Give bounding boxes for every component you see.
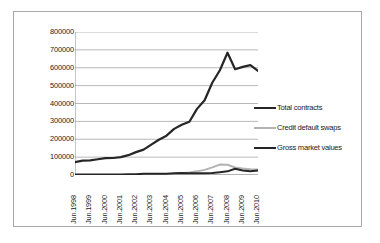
- series-line: [75, 169, 258, 175]
- legend-label: Gross market values: [277, 143, 342, 152]
- y-tick-label: 400000: [28, 100, 74, 108]
- series-line: [75, 53, 258, 162]
- x-tick-label: Jun.2007: [206, 195, 215, 224]
- y-tick-label: 200000: [28, 135, 74, 143]
- chart-legend: Total contractsCredit default swapsGross…: [254, 100, 364, 160]
- x-tick-label: Jun.2000: [100, 195, 109, 224]
- legend-item[interactable]: Gross market values: [254, 140, 364, 155]
- y-tick-label: 700000: [28, 46, 74, 54]
- y-tick-label: 500000: [28, 82, 74, 90]
- y-tick-label: 800000: [28, 28, 74, 36]
- x-tick-label: Jun.2010: [252, 195, 261, 224]
- legend-swatch-icon: [254, 127, 276, 129]
- legend-item[interactable]: Credit default swaps: [254, 120, 364, 135]
- x-tick-label: Jun.2005: [176, 195, 185, 224]
- plot-area: [75, 32, 258, 175]
- x-tick-label: Jun.2006: [191, 195, 200, 224]
- x-tick-label: Jun.2001: [115, 195, 124, 224]
- y-tick-label: 100000: [28, 153, 74, 161]
- y-tick-label: 300000: [28, 117, 74, 125]
- x-tick-label: Jun.1998: [69, 195, 78, 224]
- x-tick-label: Jun.2009: [237, 195, 246, 224]
- x-tick-label: Jun.1999: [84, 195, 93, 224]
- chart-figure: 8000007000006000005000004000003000002000…: [0, 0, 380, 243]
- x-tick-label: Jun.2002: [130, 195, 139, 224]
- x-tick-label: Jun.2003: [145, 195, 154, 224]
- legend-item[interactable]: Total contracts: [254, 100, 364, 115]
- legend-label: Credit default swaps: [277, 123, 341, 132]
- x-tick-label: Jun.2008: [222, 195, 231, 224]
- y-tick-label: 0: [28, 171, 74, 179]
- x-tick-label: Jun.2004: [161, 195, 170, 224]
- y-axis: 8000007000006000005000004000003000002000…: [28, 26, 74, 181]
- chart-frame: 8000007000006000005000004000003000002000…: [13, 11, 362, 227]
- line-chart-plot: [75, 32, 258, 175]
- x-axis: Jun.1998Jun.1999Jun.2000Jun.2001Jun.2002…: [75, 178, 261, 224]
- legend-swatch-icon: [254, 147, 276, 149]
- legend-label: Total contracts: [277, 103, 322, 112]
- legend-swatch-icon: [254, 107, 276, 109]
- y-tick-label: 600000: [28, 64, 74, 72]
